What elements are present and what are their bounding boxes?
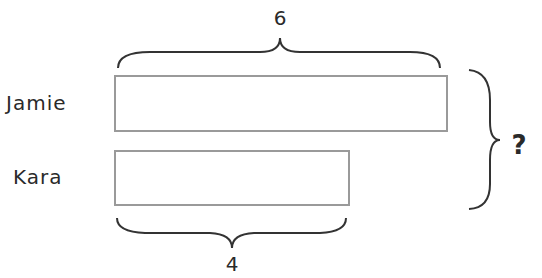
bottom-brace-icon xyxy=(117,218,346,248)
top-brace-icon xyxy=(118,38,440,68)
braces xyxy=(0,0,542,278)
right-brace-icon xyxy=(469,70,500,209)
